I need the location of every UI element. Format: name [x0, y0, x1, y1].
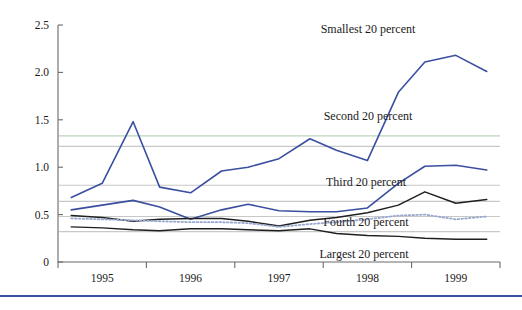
series-annotation-3: Fourth 20 percent — [323, 215, 409, 229]
x-tick-label-3: 1998 — [356, 272, 379, 284]
series-annotation-2: Third 20 percent — [326, 175, 407, 189]
chart-figure: 00.51.01.52.02.519951996199719981999Smal… — [0, 0, 522, 310]
x-tick-label-0: 1995 — [91, 272, 114, 284]
y-tick-label-5: 2.5 — [35, 19, 50, 31]
series-line-0 — [71, 55, 486, 197]
y-tick-label-1: 0.5 — [35, 209, 50, 221]
series-annotation-0: Smallest 20 percent — [321, 22, 416, 36]
y-tick-label-3: 1.5 — [35, 114, 50, 126]
series-line-4 — [71, 227, 486, 239]
x-tick-label-2: 1997 — [268, 272, 291, 284]
series-annotation-1: Second 20 percent — [324, 109, 413, 123]
y-tick-label-0: 0 — [43, 256, 49, 268]
y-tick-label-4: 2.0 — [35, 66, 50, 78]
series-annotation-4: Largest 20 percent — [319, 247, 409, 261]
x-tick-label-1: 1996 — [179, 272, 202, 284]
y-tick-label-2: 1.0 — [35, 161, 50, 173]
x-tick-label-4: 1999 — [444, 272, 467, 284]
chart-svg: 00.51.01.52.02.519951996199719981999Smal… — [0, 0, 522, 310]
